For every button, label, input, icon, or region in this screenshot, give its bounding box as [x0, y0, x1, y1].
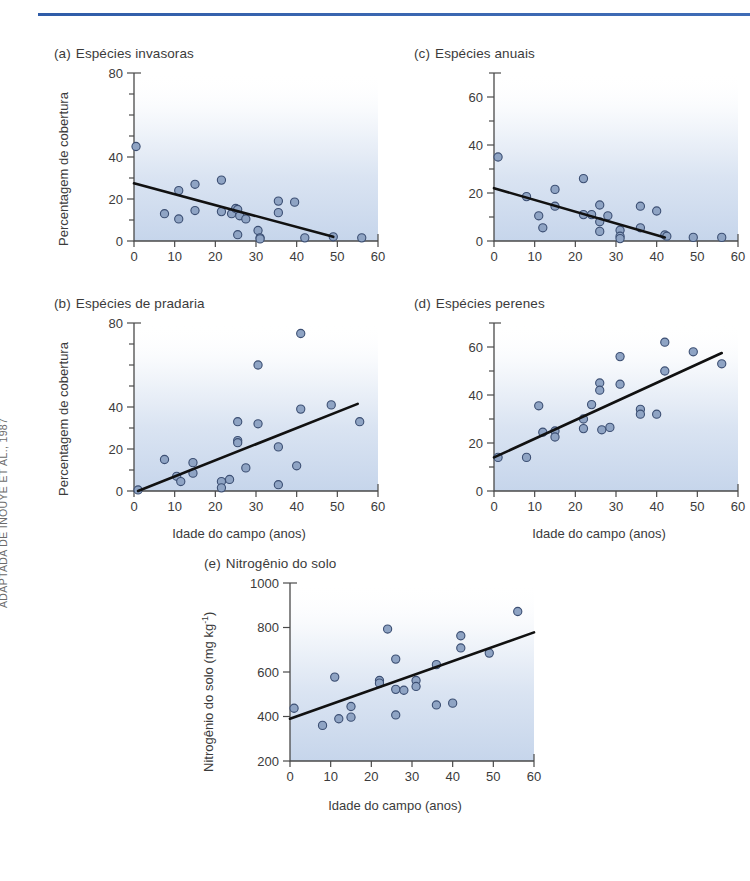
panel-b-title-text: Espécies de pradaria: [76, 296, 205, 311]
svg-text:0: 0: [116, 234, 123, 249]
svg-text:60: 60: [731, 249, 745, 264]
svg-text:20: 20: [469, 186, 483, 201]
svg-text:0: 0: [490, 249, 497, 264]
panel-d-title: (d)Espécies perenes: [414, 296, 744, 311]
panel-c-plot: 02040600102030405060: [454, 67, 744, 267]
panel-e-plot: 20040060080010000102030405060: [250, 577, 540, 787]
svg-text:50: 50: [690, 499, 704, 514]
panel-c: (c)Espécies anuais 02040600102030405060: [414, 46, 744, 267]
svg-text:50: 50: [690, 249, 704, 264]
svg-text:0: 0: [476, 484, 483, 499]
svg-text:60: 60: [371, 249, 385, 264]
svg-text:30: 30: [405, 769, 419, 784]
svg-text:0: 0: [490, 499, 497, 514]
svg-text:40: 40: [445, 769, 459, 784]
svg-text:60: 60: [527, 769, 541, 784]
svg-text:40: 40: [109, 400, 123, 415]
svg-text:50: 50: [486, 769, 500, 784]
svg-text:20: 20: [208, 249, 222, 264]
svg-text:60: 60: [731, 499, 745, 514]
svg-text:1000: 1000: [250, 576, 279, 591]
svg-text:0: 0: [286, 769, 293, 784]
svg-text:60: 60: [469, 90, 483, 105]
panel-e-title: (e)Nitrogênio do solo: [204, 556, 540, 571]
panel-b-letter: (b): [54, 296, 71, 311]
svg-text:200: 200: [257, 754, 279, 769]
svg-text:40: 40: [649, 249, 663, 264]
panel-c-title-text: Espécies anuais: [435, 46, 535, 61]
svg-text:600: 600: [257, 665, 279, 680]
svg-text:60: 60: [371, 499, 385, 514]
panel-d-letter: (d): [414, 296, 431, 311]
panel-e-xlabel: Idade do campo (anos): [250, 798, 540, 813]
panel-e-ylabel-post: ): [201, 612, 216, 616]
svg-text:400: 400: [257, 709, 279, 724]
svg-text:10: 10: [527, 499, 541, 514]
svg-text:20: 20: [364, 769, 378, 784]
panel-b-ylabel: Percentagem de cobertura: [56, 342, 71, 496]
svg-text:30: 30: [609, 499, 623, 514]
svg-text:40: 40: [109, 150, 123, 165]
panel-a-plot: 02040800102030405060: [94, 67, 384, 267]
svg-text:50: 50: [330, 249, 344, 264]
svg-text:20: 20: [568, 499, 582, 514]
svg-text:80: 80: [109, 66, 123, 81]
svg-text:30: 30: [249, 499, 263, 514]
svg-text:10: 10: [167, 249, 181, 264]
panel-d-title-text: Espécies perenes: [436, 296, 545, 311]
svg-text:40: 40: [289, 499, 303, 514]
panel-b-plot: 02040800102030405060: [94, 317, 384, 517]
svg-text:0: 0: [130, 249, 137, 264]
svg-text:0: 0: [476, 234, 483, 249]
svg-text:20: 20: [469, 436, 483, 451]
svg-text:0: 0: [130, 499, 137, 514]
panel-d-plot: 02040600102030405060: [454, 317, 744, 517]
panel-c-letter: (c): [414, 46, 430, 61]
panel-d-xlabel: Idade do campo (anos): [454, 526, 744, 541]
svg-text:20: 20: [109, 442, 123, 457]
header-rule: [38, 13, 750, 16]
svg-text:800: 800: [257, 620, 279, 635]
panel-e-ylabel: Nitrogênio do solo (mg kg-1): [200, 612, 216, 772]
panel-a: (a)Espécies invasoras Percentagem de cob…: [54, 46, 384, 267]
svg-text:10: 10: [527, 249, 541, 264]
svg-text:10: 10: [323, 769, 337, 784]
svg-text:60: 60: [469, 340, 483, 355]
panel-e: (e)Nitrogênio do solo Nitrogênio do solo…: [198, 556, 540, 787]
panel-e-ylabel-sup: -1: [200, 616, 210, 624]
panel-a-ylabel: Percentagem de cobertura: [56, 92, 71, 246]
panel-a-letter: (a): [54, 46, 71, 61]
panel-b-xlabel: Idade do campo (anos): [94, 526, 384, 541]
svg-text:40: 40: [649, 499, 663, 514]
svg-text:80: 80: [109, 316, 123, 331]
panel-e-ylabel-pre: Nitrogênio do solo (mg kg: [201, 624, 216, 772]
panel-d: (d)Espécies perenes 02040600102030405060…: [414, 296, 744, 517]
panel-c-title: (c)Espécies anuais: [414, 46, 744, 61]
panel-e-title-text: Nitrogênio do solo: [226, 556, 337, 571]
svg-text:40: 40: [469, 138, 483, 153]
svg-text:30: 30: [609, 249, 623, 264]
panel-b: (b)Espécies de pradaria Percentagem de c…: [54, 296, 384, 517]
svg-text:40: 40: [289, 249, 303, 264]
svg-text:20: 20: [568, 249, 582, 264]
panel-a-title: (a)Espécies invasoras: [54, 46, 384, 61]
source-credit: ADAPTADA DE INOUYE ET AL., 1987: [0, 338, 9, 608]
panel-a-title-text: Espécies invasoras: [76, 46, 194, 61]
panel-e-letter: (e): [204, 556, 221, 571]
svg-text:50: 50: [330, 499, 344, 514]
svg-text:30: 30: [249, 249, 263, 264]
svg-text:0: 0: [116, 484, 123, 499]
panel-b-title: (b)Espécies de pradaria: [54, 296, 384, 311]
svg-text:20: 20: [208, 499, 222, 514]
svg-text:40: 40: [469, 388, 483, 403]
svg-text:10: 10: [167, 499, 181, 514]
svg-text:20: 20: [109, 192, 123, 207]
